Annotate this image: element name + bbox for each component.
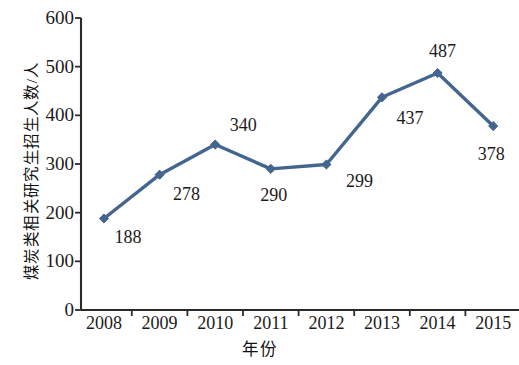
data-value-label: 290 [244,186,304,204]
line-chart: 煤炭类相关研究生招生人数/人 0100200300400500600 20082… [0,0,519,365]
data-value-label: 299 [329,172,389,190]
data-value-label: 278 [157,185,217,203]
data-value-label: 340 [213,116,273,134]
x-axis-title: 年份 [0,336,519,360]
data-value-label: 437 [380,109,440,127]
data-value-label: 188 [98,228,158,246]
data-value-label: 487 [413,42,473,60]
data-value-label: 378 [461,145,519,163]
